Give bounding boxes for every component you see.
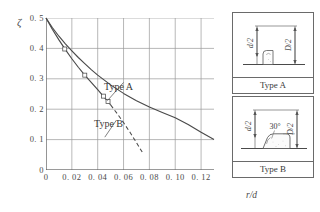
y-tick-label: 0. 5: [14, 14, 44, 23]
svg-text:D/2: D/2: [286, 123, 295, 136]
inset-caption-type-a: Type A: [233, 77, 313, 93]
chart-figure: ζ 00. 10. 20. 30. 40. 5 00. 020. 040. 06…: [0, 0, 320, 212]
svg-text:d/2: d/2: [244, 121, 253, 131]
x-tick-label: 0. 12: [184, 173, 218, 182]
inset-caption-type-b: Type B: [233, 161, 313, 177]
y-axis-tick-labels: 00. 10. 20. 30. 40. 5: [8, 18, 44, 170]
plot-area: [46, 18, 214, 170]
data-curves: [46, 18, 214, 170]
series-label-type-b: Type B: [94, 119, 123, 129]
y-tick-label: 0. 1: [14, 135, 44, 144]
y-tick-label: 0. 2: [14, 105, 44, 114]
svg-text:D/2: D/2: [284, 39, 293, 52]
angle-label: 30°: [269, 122, 280, 131]
svg-text:d/2: d/2: [246, 38, 255, 48]
type-b-profile-drawing: d/2 D/2 30°: [233, 97, 313, 163]
inset-diagram-type-a: d/2 D/2 Type A: [232, 12, 314, 94]
series-label-type-a: Type A: [104, 82, 133, 92]
y-tick-label: 0. 4: [14, 44, 44, 53]
type-a-profile-drawing: d/2 D/2: [233, 13, 313, 79]
x-axis-title: r/d: [246, 190, 257, 200]
inset-diagram-type-b: d/2 D/2 30° Type B: [232, 96, 314, 178]
y-tick-label: 0. 3: [14, 74, 44, 83]
x-axis-tick-labels: 00. 020. 040. 060. 080. 100. 12: [46, 173, 214, 185]
